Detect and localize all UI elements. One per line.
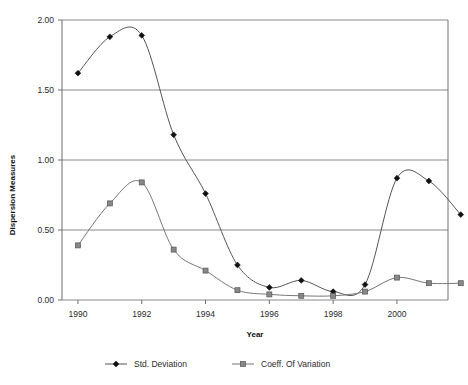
square-marker-icon (139, 180, 144, 185)
line-chart: 0.000.501.001.502.00 1990199219941996199… (0, 0, 468, 385)
y-tick-label: 1.50 (37, 85, 54, 95)
square-marker-icon (363, 289, 368, 294)
y-tick-label: 0.00 (37, 295, 54, 305)
chart-background (0, 0, 468, 385)
x-tick-label: 1998 (324, 309, 343, 319)
x-tick-label: 1996 (260, 309, 279, 319)
x-tick-label: 1990 (68, 309, 87, 319)
x-tick-label: 2000 (387, 309, 406, 319)
y-axis-title: Dispersion Measures (8, 154, 17, 235)
legend-label: Coeff. Of Variation (261, 359, 330, 369)
square-marker-icon (331, 293, 336, 298)
square-marker-icon (394, 275, 399, 280)
x-tick-label: 1994 (196, 309, 215, 319)
square-marker-icon (171, 247, 176, 252)
square-marker-icon (107, 201, 112, 206)
chart-canvas: 0.000.501.001.502.00 1990199219941996199… (0, 0, 468, 385)
square-marker-icon (458, 281, 463, 286)
square-marker-icon (426, 281, 431, 286)
y-tick-label: 2.00 (37, 15, 54, 25)
y-tick-label: 1.00 (37, 155, 54, 165)
y-tick-label: 0.50 (37, 225, 54, 235)
x-tick-label: 1992 (132, 309, 151, 319)
x-axis-title: Year (247, 330, 264, 339)
square-marker-icon (241, 362, 246, 367)
legend-label: Std. Deviation (134, 359, 187, 369)
square-marker-icon (203, 268, 208, 273)
square-marker-icon (299, 293, 304, 298)
square-marker-icon (235, 288, 240, 293)
square-marker-icon (75, 243, 80, 248)
square-marker-icon (267, 292, 272, 297)
